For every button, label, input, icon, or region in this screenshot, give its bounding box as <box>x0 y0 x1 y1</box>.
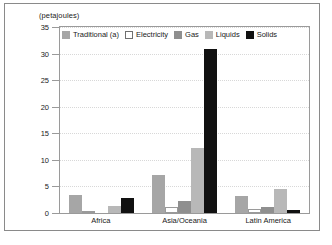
legend-item[interactable]: Solids <box>246 30 277 39</box>
bar[interactable] <box>274 189 287 213</box>
y-tick-label: 0 <box>45 209 49 218</box>
legend-swatch-icon <box>174 31 182 39</box>
y-tick-label: 35 <box>41 23 49 32</box>
y-tick-label: 10 <box>41 155 49 164</box>
bar[interactable] <box>121 198 134 213</box>
legend-label: Traditional (a) <box>73 30 119 39</box>
legend-label: Solids <box>257 30 277 39</box>
legend-item[interactable]: Gas <box>174 30 199 39</box>
bar[interactable] <box>248 209 261 213</box>
y-axis-title: (petajoules) <box>39 11 79 20</box>
bar[interactable] <box>204 49 217 213</box>
y-tick-mark <box>52 54 59 55</box>
y-tick-mark <box>52 213 59 214</box>
bar[interactable] <box>191 148 204 213</box>
bar-groups <box>60 27 309 213</box>
legend-label: Gas <box>185 30 199 39</box>
x-tick-label: Latin America <box>226 216 310 225</box>
y-tick-mark <box>52 133 59 134</box>
legend-item[interactable]: Liquids <box>205 30 240 39</box>
bar[interactable] <box>261 207 274 213</box>
y-tick-mark <box>52 107 59 108</box>
y-tick-label: 15 <box>41 129 49 138</box>
bar[interactable] <box>178 201 191 213</box>
y-tick-label: 25 <box>41 76 49 85</box>
bar-group <box>143 27 226 213</box>
bar-group <box>226 27 309 213</box>
legend-item[interactable]: Electricity <box>125 30 168 39</box>
chart-legend: Traditional (a)ElectricityGasLiquidsSoli… <box>62 30 277 39</box>
y-tick-label: 5 <box>45 182 49 191</box>
y-tick-label: 30 <box>41 49 49 58</box>
legend-swatch-icon <box>246 31 254 39</box>
bar[interactable] <box>165 207 178 213</box>
y-tick-label: 20 <box>41 102 49 111</box>
bar[interactable] <box>235 196 248 213</box>
y-tick-mark <box>52 27 59 28</box>
bar[interactable] <box>69 195 82 213</box>
legend-swatch-icon <box>125 31 133 39</box>
bar[interactable] <box>287 210 300 213</box>
x-tick-label: Asia/Oceania <box>143 216 227 225</box>
x-tick-label: Africa <box>59 216 143 225</box>
chart-figure: (petajoules) 05101520253035 Traditional … <box>4 3 320 231</box>
y-tick-mark <box>52 80 59 81</box>
bar-group <box>60 27 143 213</box>
legend-item[interactable]: Traditional (a) <box>62 30 119 39</box>
y-tick-mark <box>52 186 59 187</box>
legend-swatch-icon <box>205 31 213 39</box>
x-axis-labels: AfricaAsia/OceaniaLatin America <box>59 216 310 225</box>
bar[interactable] <box>108 206 121 213</box>
y-tick-mark <box>52 160 59 161</box>
plot-area <box>59 26 310 214</box>
y-axis: 05101520253035 <box>5 26 59 214</box>
bar[interactable] <box>152 175 165 213</box>
legend-label: Liquids <box>216 30 240 39</box>
legend-label: Electricity <box>136 30 168 39</box>
legend-swatch-icon <box>62 31 70 39</box>
bar[interactable] <box>82 211 95 213</box>
